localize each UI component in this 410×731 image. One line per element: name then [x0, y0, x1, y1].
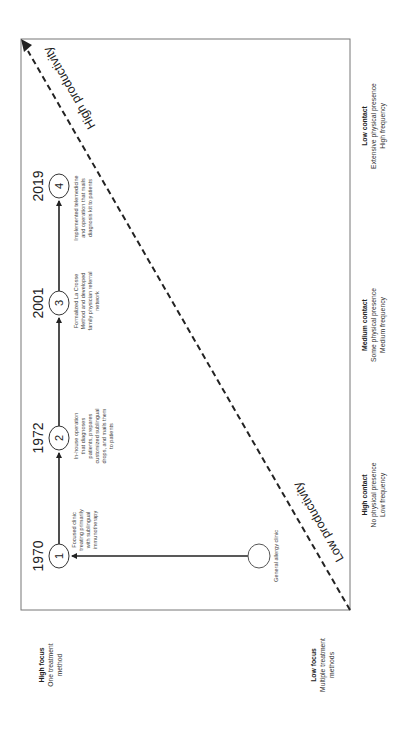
svg-text:customized sublingual: customized sublingual — [94, 408, 100, 463]
svg-text:treating primarily: treating primarily — [78, 509, 84, 551]
svg-text:and operation that mails: and operation that mails — [80, 178, 86, 238]
svg-text:High frequency: High frequency — [379, 103, 387, 149]
focus-low-label: Low focus Multiple treatment methods — [310, 638, 335, 692]
svg-text:Implemented telemedicine: Implemented telemedicine — [73, 175, 79, 240]
svg-text:Extensive physical presence: Extensive physical presence — [370, 83, 378, 169]
milestone-1-number: 1 — [53, 553, 65, 559]
svg-text:method: method — [56, 653, 63, 676]
svg-text:Low focus: Low focus — [310, 648, 317, 682]
svg-text:drops, and mails them: drops, and mails them — [101, 408, 107, 463]
milestone-2-number: 2 — [53, 435, 65, 441]
svg-text:In-house operation: In-house operation — [73, 413, 79, 460]
general-clinic-label: General allergy clinic — [273, 530, 279, 582]
svg-text:General allergy clinic: General allergy clinic — [273, 530, 279, 582]
strategy-diagram: High productivity Low productivity Gener… — [0, 0, 410, 731]
focus-high-label: High focus One treatment method — [38, 643, 63, 687]
svg-text:Medium frequency: Medium frequency — [379, 296, 387, 353]
svg-text:High focus: High focus — [38, 647, 46, 682]
svg-text:Method and developed: Method and developed — [80, 273, 86, 330]
milestone-3: 3 2001 Formalized La Crosse Method and d… — [30, 272, 100, 331]
svg-text:Focused clinic: Focused clinic — [71, 512, 77, 548]
svg-text:diagnosis kit to patients: diagnosis kit to patients — [87, 179, 93, 237]
milestone-3-number: 3 — [53, 300, 65, 306]
svg-text:to patients: to patients — [108, 423, 114, 449]
svg-text:One treatment: One treatment — [47, 643, 54, 687]
contact-low-label: Low contact Extensive physical presence … — [361, 83, 387, 169]
milestone-1-year: 1970 — [30, 540, 46, 571]
svg-text:Low contact: Low contact — [361, 105, 368, 145]
svg-text:Low frequency: Low frequency — [379, 472, 387, 517]
svg-text:with sublingual: with sublingual — [85, 512, 91, 550]
contact-high-label: High contact No physical presence Low fr… — [361, 462, 387, 527]
milestone-4-year: 2019 — [30, 170, 46, 201]
milestone-2: 2 1972 In-house operation that diagnoses… — [30, 408, 114, 463]
svg-text:Multiple treatment: Multiple treatment — [319, 638, 327, 692]
general-clinic-node — [248, 544, 270, 568]
svg-text:Medium contact: Medium contact — [361, 298, 368, 350]
svg-text:family physician referral: family physician referral — [87, 272, 93, 331]
contact-medium-label: Medium contact Some physical presence Me… — [361, 288, 387, 362]
svg-text:network: network — [94, 291, 100, 311]
svg-text:High contact: High contact — [361, 474, 369, 516]
milestone-4-number: 4 — [53, 183, 65, 189]
svg-text:Some physical presence: Some physical presence — [370, 288, 378, 362]
svg-text:patients, prepares: patients, prepares — [87, 413, 93, 458]
svg-text:methods: methods — [328, 651, 335, 678]
svg-text:No physical presence: No physical presence — [370, 462, 378, 527]
svg-text:Formalized La Crosse: Formalized La Crosse — [73, 274, 79, 329]
milestone-4: 4 2019 Implemented telemedicine and oper… — [30, 170, 93, 240]
svg-text:immunotherapy: immunotherapy — [92, 511, 98, 550]
productivity-arrowhead-icon — [21, 39, 32, 52]
svg-text:that diagnoses: that diagnoses — [80, 418, 86, 455]
milestone-3-year: 2001 — [30, 287, 46, 318]
milestone-2-year: 1972 — [30, 422, 46, 453]
milestone-1: 1 1970 Focused clinic treating primarily… — [30, 509, 98, 571]
